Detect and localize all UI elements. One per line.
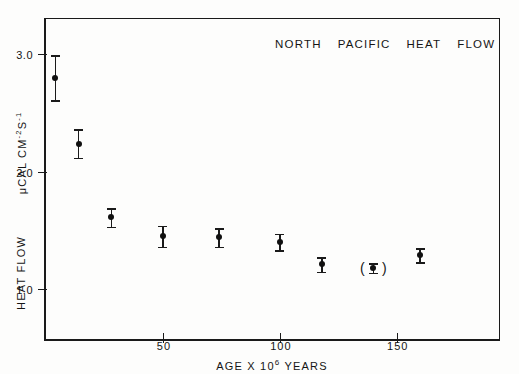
x-tick-label-50: 50 [157, 340, 171, 352]
x-tick-150: 150 [397, 333, 398, 343]
error-bar-cap-lower [416, 262, 425, 264]
error-bar-cap-lower [275, 250, 284, 252]
x-label-pre: AGE X 10 [216, 360, 275, 372]
y-tick-2.0: 2.0 [38, 172, 47, 173]
error-bar-cap-lower [215, 247, 224, 249]
error-bar-cap-upper [416, 248, 425, 250]
plot-frame: 1.02.03.0 50100150 () [44, 18, 500, 341]
data-point-marker [108, 214, 114, 220]
y-axis-name-label: HEAT FLOW [15, 236, 27, 310]
error-bar-cap-upper [317, 257, 326, 259]
y-tick-label-2.0: 2.0 [16, 167, 33, 179]
x-tick-label-100: 100 [270, 340, 291, 352]
x-tick-100: 100 [280, 333, 281, 343]
y-tick-1.0: 1.0 [38, 289, 47, 290]
data-point-marker [216, 234, 222, 240]
heat-flow-figure: NORTHPACIFICHEATFLOW μCAL CM-2S-1 HEAT F… [0, 0, 519, 374]
error-bar-cap-upper [74, 129, 83, 131]
error-bar-cap-lower [107, 227, 116, 229]
data-point-marker [417, 252, 423, 258]
data-point-marker [52, 75, 58, 81]
error-bar-cap-lower [369, 273, 378, 275]
error-bar-cap-lower [74, 158, 83, 160]
error-bar-cap-lower [51, 100, 60, 102]
error-bar-cap-upper [215, 228, 224, 230]
y-tick-3.0: 3.0 [38, 54, 47, 55]
x-tick-50: 50 [163, 333, 164, 343]
data-point-marker [160, 233, 166, 239]
error-bar-cap-lower [158, 247, 167, 249]
y-axis-units-label: μCAL CM-2S-1 [14, 112, 28, 195]
y-tick-label-1.0: 1.0 [16, 284, 33, 296]
data-point-marker [76, 141, 82, 147]
data-point-marker [277, 239, 283, 245]
paren-right: ) [382, 260, 387, 276]
y-units-exp2: -1 [14, 112, 23, 121]
x-label-post: YEARS [280, 360, 327, 372]
error-bar-cap-upper [275, 234, 284, 236]
x-tick-label-150: 150 [387, 340, 408, 352]
data-point-marker [319, 261, 325, 267]
paren-left: ( [360, 260, 365, 276]
error-bar-cap-upper [107, 208, 116, 210]
data-point-marker [370, 265, 376, 271]
y-units-text2: S [16, 121, 28, 130]
error-bar-cap-upper [51, 55, 60, 57]
error-bar-cap-lower [317, 272, 326, 274]
y-tick-label-3.0: 3.0 [16, 49, 33, 61]
error-bar-cap-upper [158, 226, 167, 228]
x-axis-title: AGE X 106 YEARS [44, 358, 500, 372]
y-units-exp1: -2 [14, 129, 23, 138]
